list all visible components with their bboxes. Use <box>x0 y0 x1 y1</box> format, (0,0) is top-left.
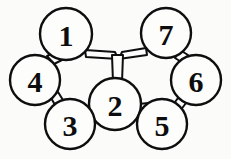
node-4-label: 4 <box>28 65 43 98</box>
node-4[interactable]: 4 <box>10 55 60 105</box>
node-layer: 1 7 4 6 2 3 <box>10 8 221 149</box>
node-3-label: 3 <box>63 109 78 142</box>
node-1-label: 1 <box>59 19 74 52</box>
node-7-label: 7 <box>159 18 174 51</box>
node-2-label: 2 <box>108 89 123 122</box>
node-5[interactable]: 5 <box>137 99 187 149</box>
node-1[interactable]: 1 <box>40 8 92 60</box>
node-7[interactable]: 7 <box>141 8 191 58</box>
node-5-label: 5 <box>155 109 170 142</box>
node-graph-diagram: 1 7 4 6 2 3 <box>0 0 231 159</box>
node-6-label: 6 <box>189 65 204 98</box>
node-2[interactable]: 2 <box>89 78 141 130</box>
node-3[interactable]: 3 <box>45 99 95 149</box>
graph-canvas: 1 7 4 6 2 3 <box>0 0 231 159</box>
node-6[interactable]: 6 <box>171 55 221 105</box>
